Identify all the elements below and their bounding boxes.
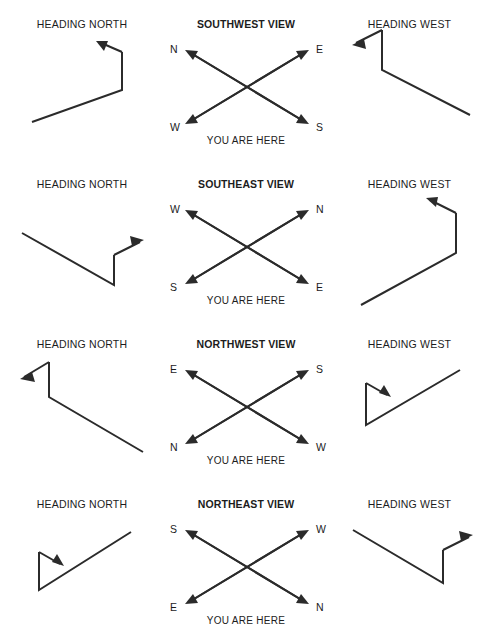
- diagram-row-1: HEADING NORTH SOUTHWEST VIEW N E W: [0, 0, 491, 160]
- row-2-compass-label-top-left: W: [170, 203, 180, 215]
- row-1-center-panel: SOUTHWEST VIEW N E W S YOU ARE HERE: [164, 0, 328, 160]
- row-2-right-figure: [328, 160, 491, 320]
- row-3-left-figure: [0, 320, 164, 480]
- row-1-you-are-here: YOU ARE HERE: [164, 135, 328, 147]
- worksheet-page: HEADING NORTH SOUTHWEST VIEW N E W: [0, 0, 491, 634]
- row-4-compass-label-top-right: W: [316, 523, 326, 535]
- diagram-row-4: HEADING NORTH NORTHEAST VIEW S W E: [0, 480, 491, 634]
- row-4-compass-label-bottom-right: N: [316, 601, 324, 613]
- row-4-right-figure: [328, 480, 491, 634]
- row-3-compass-label-bottom-right: W: [316, 441, 326, 453]
- row-1-compass-label-bottom-left: W: [170, 121, 180, 133]
- row-2-compass-label-bottom-left: S: [170, 281, 177, 293]
- row-3-left-panel: HEADING NORTH: [0, 320, 164, 480]
- row-4-you-are-here: YOU ARE HERE: [164, 615, 328, 627]
- row-2-left-figure: [0, 160, 164, 320]
- row-1-right-figure: [328, 0, 491, 160]
- row-4-right-panel: HEADING WEST: [328, 480, 491, 634]
- row-2-center-panel: SOUTHEAST VIEW W N S E YOU ARE HERE: [164, 160, 328, 320]
- diagram-row-2: HEADING NORTH SOUTHEAST VIEW W N S: [0, 160, 491, 320]
- diagram-row-3: HEADING NORTH NORTHWEST VIEW E S N: [0, 320, 491, 480]
- row-2-you-are-here: YOU ARE HERE: [164, 295, 328, 307]
- row-1-left-figure: [0, 0, 164, 160]
- row-1-compass-label-top-left: N: [170, 43, 178, 55]
- row-2-compass-label-bottom-right: E: [316, 281, 323, 293]
- row-1-right-panel: HEADING WEST: [328, 0, 491, 160]
- row-3-compass-label-bottom-left: N: [170, 441, 178, 453]
- row-4-left-figure: [0, 480, 164, 634]
- row-3-center-panel: NORTHWEST VIEW E S N W YOU ARE HERE: [164, 320, 328, 480]
- row-2-right-panel: HEADING WEST: [328, 160, 491, 320]
- row-3-right-panel: HEADING WEST: [328, 320, 491, 480]
- row-4-left-panel: HEADING NORTH: [0, 480, 164, 634]
- row-4-center-panel: NORTHEAST VIEW S W E N YOU ARE HERE: [164, 480, 328, 634]
- row-4-compass-label-top-left: S: [170, 523, 177, 535]
- row-1-compass-label-bottom-right: S: [316, 121, 323, 133]
- row-4-compass-figure: S W E N: [164, 480, 328, 634]
- row-4-compass-label-bottom-left: E: [170, 601, 177, 613]
- row-1-compass-label-top-right: E: [316, 43, 323, 55]
- row-3-compass-label-top-right: S: [316, 363, 323, 375]
- row-3-right-figure: [328, 320, 491, 480]
- row-3-compass-label-top-left: E: [170, 363, 177, 375]
- row-1-left-panel: HEADING NORTH: [0, 0, 164, 160]
- row-3-you-are-here: YOU ARE HERE: [164, 455, 328, 467]
- row-2-compass-label-top-right: N: [316, 203, 324, 215]
- row-2-left-panel: HEADING NORTH: [0, 160, 164, 320]
